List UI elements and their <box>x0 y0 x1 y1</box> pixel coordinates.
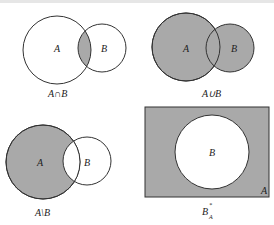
set-b-label: B <box>101 43 107 54</box>
caption-union: A∪B <box>201 88 221 99</box>
caption-difference: A\B <box>34 207 50 218</box>
diagram-intersection: A B A∩B <box>23 16 126 99</box>
set-a-label: A <box>36 157 44 168</box>
set-a-label: A <box>53 43 61 54</box>
set-a-label: A <box>182 43 190 54</box>
caption-subscript: A <box>208 214 213 220</box>
set-b-label: B <box>84 157 90 168</box>
caption-intersection: A∩B <box>47 88 67 99</box>
caption-superscript: * <box>209 202 212 208</box>
venn-diagrams: A B A∩B A B A∪B A B A\B B A B * A <box>0 0 274 225</box>
caption-complement: B <box>202 206 208 217</box>
set-b-label: B <box>231 43 237 54</box>
set-b-label: B <box>209 147 215 158</box>
diagram-union: A B A∪B <box>152 13 254 99</box>
universe-a-label: A <box>260 185 268 196</box>
diagram-difference: A B A\B <box>6 125 111 218</box>
diagram-complement: B A B * A <box>145 107 269 220</box>
